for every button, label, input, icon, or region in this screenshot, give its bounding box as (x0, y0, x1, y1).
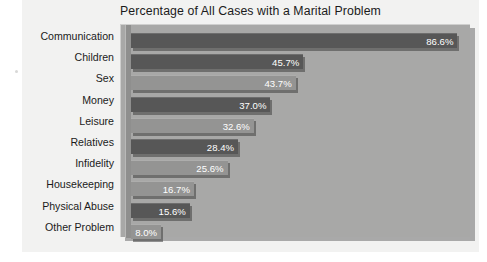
bar-value-label: 45.7% (272, 56, 299, 69)
category-label: Physical Abuse (22, 200, 114, 212)
category-label: Other Problem (22, 221, 114, 233)
chart-page: Percentage of All Cases with a Marital P… (0, 0, 487, 262)
bar-value-label: 86.6% (426, 35, 453, 48)
bar[interactable]: 8.0% (131, 224, 161, 239)
category-label: Communication (22, 30, 114, 42)
bar-value-label: 8.0% (135, 226, 157, 239)
bar-value-label: 28.4% (207, 141, 234, 154)
bar-value-label: 16.7% (163, 183, 190, 196)
category-label: Relatives (22, 136, 114, 148)
bar[interactable]: 86.6% (131, 33, 457, 48)
bar-wrapper: 45.7% (131, 54, 303, 69)
category-label: Money (22, 94, 114, 106)
bar[interactable]: 28.4% (131, 139, 238, 154)
bar-wrapper: 43.7% (131, 75, 296, 90)
bar-value-label: 43.7% (265, 77, 292, 90)
bar-wrapper: 8.0% (131, 224, 161, 239)
chart-title: Percentage of All Cases with a Marital P… (22, 4, 479, 18)
bar[interactable]: 16.7% (131, 181, 194, 196)
bar-wrapper: 32.6% (131, 118, 254, 133)
bar[interactable]: 15.6% (131, 203, 190, 218)
scan-artifact-speck (15, 70, 18, 73)
plot-area: 86.6%45.7%43.7%37.0%32.6%28.4%25.6%16.7%… (120, 24, 470, 237)
bar-wrapper: 28.4% (131, 139, 238, 154)
category-label: Housekeeping (22, 178, 114, 190)
bar[interactable]: 25.6% (131, 160, 228, 175)
bar-wrapper: 16.7% (131, 181, 194, 196)
bar-wrapper: 37.0% (131, 97, 270, 112)
bar-wrapper: 25.6% (131, 160, 228, 175)
bar[interactable]: 45.7% (131, 54, 303, 69)
category-label: Sex (22, 72, 114, 84)
bar-wrapper: 86.6% (131, 33, 457, 48)
category-label: Children (22, 51, 114, 63)
bar-value-label: 25.6% (196, 162, 223, 175)
category-label: Leisure (22, 115, 114, 127)
bar-wrapper: 15.6% (131, 203, 190, 218)
bar[interactable]: 32.6% (131, 118, 254, 133)
bar-value-label: 37.0% (239, 99, 266, 112)
bar-value-label: 32.6% (223, 120, 250, 133)
bar[interactable]: 43.7% (131, 75, 296, 90)
bar[interactable]: 37.0% (131, 97, 270, 112)
category-label: Infidelity (22, 157, 114, 169)
bar-value-label: 15.6% (159, 205, 186, 218)
chart-card: Percentage of All Cases with a Marital P… (22, 0, 479, 252)
